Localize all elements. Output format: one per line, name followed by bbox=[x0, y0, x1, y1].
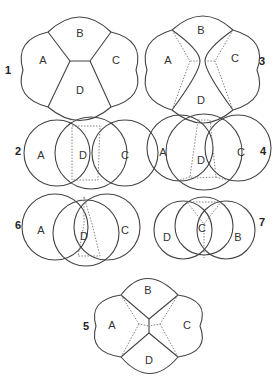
diagram-4: 4 A D C bbox=[147, 114, 271, 190]
diagram-number: 1 bbox=[5, 64, 11, 76]
cell-label-d: D bbox=[197, 154, 205, 166]
cell-label-c: C bbox=[112, 54, 120, 66]
diagram-number: 3 bbox=[259, 55, 265, 67]
diagram-number: 7 bbox=[259, 216, 265, 228]
cell-label-d: D bbox=[145, 354, 153, 366]
cell-label-c: C bbox=[237, 146, 245, 158]
cell-label-c: C bbox=[231, 52, 239, 64]
diagram-7: 7 D C B bbox=[154, 197, 265, 259]
cell-label-d: D bbox=[197, 94, 205, 106]
diagram-2: 2 A D C bbox=[15, 117, 158, 189]
diagram-number: 2 bbox=[15, 145, 21, 157]
cell-label-a: A bbox=[37, 224, 45, 236]
cell-label-a: A bbox=[159, 146, 167, 158]
cell-label-b: B bbox=[76, 27, 83, 39]
cell-configuration-diagram: 1 A B C D 3 A B C D 2 A D C 4 A D bbox=[0, 0, 279, 381]
cell-label-a: A bbox=[39, 54, 47, 66]
cell-label-c: C bbox=[121, 149, 129, 161]
diagram-5: 5 A B C D bbox=[83, 279, 202, 374]
cell-label-d: D bbox=[163, 231, 171, 243]
cell-label-d: D bbox=[80, 230, 88, 242]
diagram-3: 3 A B C D bbox=[145, 16, 265, 123]
diagram-number: 6 bbox=[15, 219, 21, 231]
cell-label-d: D bbox=[76, 84, 84, 96]
cell-label-a: A bbox=[37, 149, 45, 161]
diagram-number: 4 bbox=[260, 145, 267, 157]
diagram-1: 1 A B C D bbox=[5, 17, 138, 121]
cell-label-a: A bbox=[164, 54, 172, 66]
cell-label-c: C bbox=[198, 222, 206, 234]
cell-label-b: B bbox=[144, 284, 151, 296]
cell-label-b: B bbox=[197, 24, 204, 36]
cell-label-a: A bbox=[108, 319, 116, 331]
cell-label-c: C bbox=[183, 319, 191, 331]
diagram-number: 5 bbox=[83, 320, 89, 332]
cell-label-c: C bbox=[121, 224, 129, 236]
diagram-6: 6 A D C bbox=[15, 194, 140, 266]
cell-label-d: D bbox=[79, 149, 87, 161]
cell-label-b: B bbox=[234, 231, 241, 243]
